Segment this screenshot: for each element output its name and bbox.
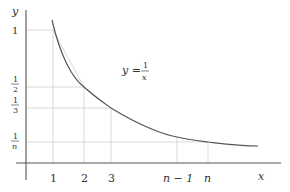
guide-lines — [26, 30, 208, 163]
hyperbola-diagram: y x 1 1 2 1 3 1 n 1 2 3 n − 1 n y = 1 x — [0, 0, 290, 192]
svg-text:n: n — [12, 142, 17, 151]
svg-text:1: 1 — [13, 132, 18, 141]
y-axis-label: y — [11, 5, 19, 18]
x-tick-3: 3 — [108, 172, 115, 185]
svg-text:1: 1 — [13, 75, 18, 84]
y-tick-half: 1 2 — [11, 75, 19, 94]
svg-text:3: 3 — [13, 106, 18, 115]
x-tick-n-minus-1: n − 1 — [163, 172, 193, 185]
svg-text:x: x — [142, 73, 147, 82]
svg-text:2: 2 — [13, 85, 18, 94]
curve-1-over-x — [52, 20, 258, 146]
y-tick-1: 1 — [12, 25, 18, 36]
y-tick-1-over-n: 1 n — [11, 132, 19, 151]
svg-text:1: 1 — [143, 61, 148, 70]
svg-text:y =: y = — [121, 64, 141, 77]
equation-label: y = 1 x — [121, 61, 149, 82]
x-tick-2: 2 — [81, 172, 88, 185]
x-axis-label: x — [258, 170, 265, 183]
y-tick-third: 1 3 — [11, 96, 19, 115]
svg-text:1: 1 — [13, 96, 18, 105]
x-tick-n: n — [204, 172, 211, 185]
x-tick-1: 1 — [50, 172, 57, 185]
